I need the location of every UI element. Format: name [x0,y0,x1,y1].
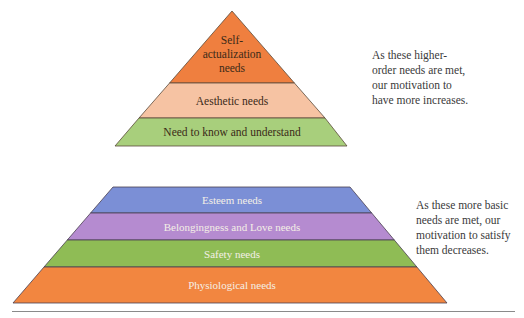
caption-line: needs are met, our [416,213,511,228]
caption-line: motivation to satisfy [416,228,511,243]
caption-line: them decreases. [416,243,511,258]
aesthetic-label: Aesthetic needs [196,95,269,107]
bottom-rule-divider [12,311,515,312]
caption-line: As these more basic [416,198,511,213]
caption-line: our motivation to [372,78,468,93]
higher-needs-caption: As these higher- order needs are met, ou… [372,48,468,108]
physiological-label: Physiological needs [188,279,276,291]
belongingness-label: Belongingness and Love needs [164,221,301,233]
caption-line: have more increases. [372,93,468,108]
bottom-pyramid: Esteem needs Belongingness and Love need… [13,187,447,303]
top-pyramid: Self- actualization needs Aesthetic need… [115,11,347,146]
basic-needs-caption: As these more basic needs are met, our m… [416,198,511,258]
caption-line: As these higher- [372,48,468,63]
self-actualization-label-line2: actualization [203,48,262,60]
esteem-label: Esteem needs [202,194,262,206]
know-understand-label: Need to know and understand [163,126,301,138]
caption-line: order needs are met, [372,63,468,78]
safety-label: Safety needs [204,248,260,260]
self-actualization-label-line1: Self- [221,34,244,46]
self-actualization-label-line3: needs [219,62,246,74]
